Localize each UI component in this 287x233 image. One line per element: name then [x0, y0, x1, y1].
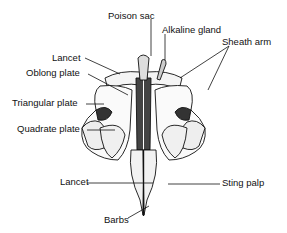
label-lancet-bottom: Lancet — [60, 176, 89, 187]
sting-anatomy-diagram: Poison sac Alkaline gland Sheath arm Lan… — [0, 0, 287, 233]
label-lancet-top: Lancet — [52, 52, 81, 63]
label-sheath-arm: Sheath arm — [222, 36, 271, 47]
label-poison-sac: Poison sac — [108, 10, 154, 21]
sting-illustration — [0, 0, 287, 233]
label-triangular-plate: Triangular plate — [12, 97, 78, 108]
label-oblong-plate: Oblong plate — [26, 67, 80, 78]
label-quadrate-plate: Quadrate plate — [17, 123, 80, 134]
label-sting-palp: Sting palp — [222, 177, 264, 188]
label-alkaline-gland: Alkaline gland — [162, 24, 221, 35]
label-barbs: Barbs — [104, 214, 129, 225]
